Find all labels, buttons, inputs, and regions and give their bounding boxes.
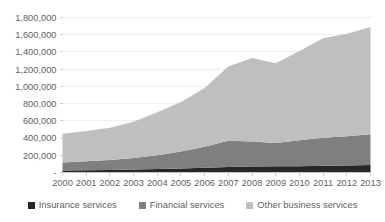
- legend-swatch-icon: [139, 202, 146, 209]
- x-axis-label-2004: 2004: [147, 178, 168, 188]
- legend-item-other-business-services[interactable]: Other business services: [246, 200, 357, 209]
- x-axis-label-2002: 2002: [100, 178, 121, 188]
- y-axis-label-1400000: 1,400,000: [15, 47, 56, 57]
- chart-plot-area: -200,000400,000600,000800,0001,000,0001,…: [0, 0, 385, 190]
- x-axis-label-2011: 2011: [313, 178, 333, 188]
- y-axis-label-zero: -: [53, 168, 56, 178]
- y-axis-label-1000000: 1,000,000: [15, 82, 56, 92]
- x-axis-label-2010: 2010: [289, 178, 310, 188]
- x-axis-label-2009: 2009: [265, 178, 286, 188]
- y-axis-label-600000: 600,000: [23, 116, 57, 126]
- chart-canvas: -200,000400,000600,000800,0001,000,0001,…: [0, 0, 385, 190]
- legend-label: Other business services: [257, 200, 357, 209]
- y-axis-label-800000: 800,000: [23, 99, 57, 109]
- area-series-group: [63, 27, 371, 173]
- legend-item-financial-services[interactable]: Financial services: [139, 200, 225, 209]
- chart-legend: Insurance servicesFinancial servicesOthe…: [0, 196, 385, 214]
- x-axis-tick-labels: 2000200120022003200420052006200720082009…: [52, 178, 381, 188]
- x-axis-label-2006: 2006: [194, 178, 215, 188]
- y-axis-label-1200000: 1,200,000: [15, 65, 56, 75]
- x-axis-label-2001: 2001: [76, 178, 97, 188]
- legend-label: Insurance services: [39, 200, 117, 209]
- x-axis-label-2000: 2000: [52, 178, 73, 188]
- y-axis-label-200000: 200,000: [23, 151, 57, 161]
- legend-swatch-icon: [246, 202, 253, 209]
- stacked-area-chart: -200,000400,000600,000800,0001,000,0001,…: [0, 0, 385, 222]
- x-axis-label-2008: 2008: [242, 178, 263, 188]
- y-axis-label-400000: 400,000: [23, 133, 57, 143]
- legend-label: Financial services: [150, 200, 225, 209]
- legend-swatch-icon: [28, 202, 35, 209]
- legend-item-insurance-services[interactable]: Insurance services: [28, 200, 117, 209]
- x-axis-label-2005: 2005: [171, 178, 192, 188]
- x-axis-label-2007: 2007: [218, 178, 239, 188]
- x-axis-label-2012: 2012: [336, 178, 357, 188]
- x-axis-label-2013: 2013: [360, 178, 381, 188]
- x-axis-label-2003: 2003: [123, 178, 144, 188]
- y-axis-label-1600000: 1,600,000: [15, 30, 56, 40]
- y-axis-label-1800000: 1,800,000: [15, 13, 56, 23]
- y-axis-tick-labels: -200,000400,000600,000800,0001,000,0001,…: [15, 13, 56, 178]
